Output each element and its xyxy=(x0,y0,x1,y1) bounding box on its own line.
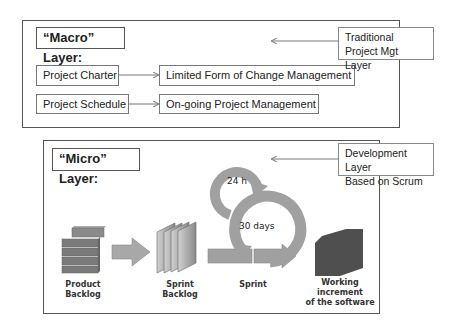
working-increment-icon xyxy=(315,229,363,276)
daily-cycle-label: 24 h xyxy=(227,176,247,186)
development-layer-note: Development Layer Based on Scrum xyxy=(338,143,434,176)
sprint-label: Sprint xyxy=(233,280,273,290)
arrow-icon xyxy=(119,41,338,159)
product-backlog-icon xyxy=(62,226,106,273)
product-backlog-label: Product Backlog xyxy=(48,280,118,300)
working-increment-label: Working increment of the software xyxy=(300,278,380,308)
sprint-backlog-label: Sprint Backlog xyxy=(150,280,210,300)
flow-arrow-icon xyxy=(112,238,150,266)
sprint-backlog-icon xyxy=(157,222,196,273)
sprint-cycle-label: 30 days xyxy=(239,221,275,231)
